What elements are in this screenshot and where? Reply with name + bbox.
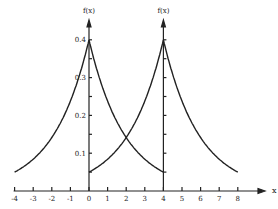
y-tick-label: 0.2 xyxy=(75,112,86,120)
x-tick-label: 5 xyxy=(180,195,184,203)
curves xyxy=(15,40,238,172)
density-chart: x-4-3-2-1012345678f(x)f(x)0.10.20.30.4 xyxy=(0,0,278,209)
x-tick-label: 1 xyxy=(105,195,109,203)
x-tick-label: 7 xyxy=(217,195,221,203)
x-tick-label: -2 xyxy=(48,195,55,203)
y-axis-arrow-icon xyxy=(161,20,165,27)
x-tick-label: 6 xyxy=(198,195,203,203)
x-tick-label: 8 xyxy=(236,195,240,203)
y-tick-label: 0.3 xyxy=(75,74,86,82)
x-tick-label: 4 xyxy=(161,195,166,203)
axes xyxy=(14,20,265,194)
y-tick-label: 0.1 xyxy=(75,150,86,158)
y-axis-arrow-icon xyxy=(87,20,91,27)
x-axis-arrow-icon xyxy=(258,189,265,194)
x-tick-label: 0 xyxy=(87,195,91,203)
y-axis-label: f(x) xyxy=(83,7,95,15)
x-tick-label: -3 xyxy=(30,195,37,203)
y-tick-label: 0.4 xyxy=(75,36,87,44)
labels: x-4-3-2-1012345678f(x)f(x)0.10.20.30.4 xyxy=(11,7,277,203)
x-axis-label: x xyxy=(272,186,277,195)
x-tick-label: -4 xyxy=(11,195,18,203)
x-tick-label: 3 xyxy=(143,195,147,203)
x-tick-label: -1 xyxy=(67,195,74,203)
x-tick-label: 2 xyxy=(124,195,128,203)
y-axis-label: f(x) xyxy=(157,7,169,15)
